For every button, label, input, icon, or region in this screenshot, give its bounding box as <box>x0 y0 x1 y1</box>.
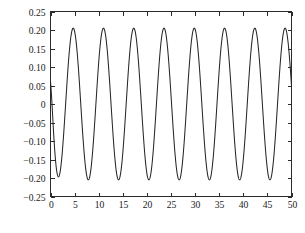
x-tick-label: 45 <box>263 199 273 210</box>
y-tick-label: −0.10 <box>23 136 45 147</box>
x-tick-label: 15 <box>119 199 129 210</box>
y-tick-label: −0.20 <box>23 173 45 184</box>
y-tick-label: −0.25 <box>23 192 45 203</box>
y-tick-label: −0.15 <box>23 155 45 166</box>
y-tick-label: 0.05 <box>29 81 46 92</box>
x-tick-label: 50 <box>288 199 298 210</box>
y-tick-label: 0.10 <box>29 62 46 73</box>
x-tick-label: 35 <box>215 199 225 210</box>
x-tick-label: 25 <box>167 199 177 210</box>
x-tick-label: 30 <box>191 199 201 210</box>
y-tick-label: −0.05 <box>23 118 45 129</box>
x-tick-label: 20 <box>143 199 153 210</box>
y-tick-label: 0.20 <box>29 25 46 36</box>
y-tick-label: 0.25 <box>29 7 46 18</box>
x-tick-label: 5 <box>73 199 78 210</box>
y-tick-label: 0 <box>41 99 46 110</box>
figure-container: Control input time/s −0.25−0.20−0.15−0.1… <box>0 0 305 233</box>
x-tick-label: 10 <box>95 199 105 210</box>
plot-area: −0.25−0.20−0.15−0.10−0.0500.050.100.150.… <box>0 0 305 233</box>
y-tick-label: 0.15 <box>29 44 46 55</box>
x-tick-label: 40 <box>239 199 249 210</box>
x-tick-label: 0 <box>49 199 54 210</box>
figure-background <box>0 0 305 233</box>
